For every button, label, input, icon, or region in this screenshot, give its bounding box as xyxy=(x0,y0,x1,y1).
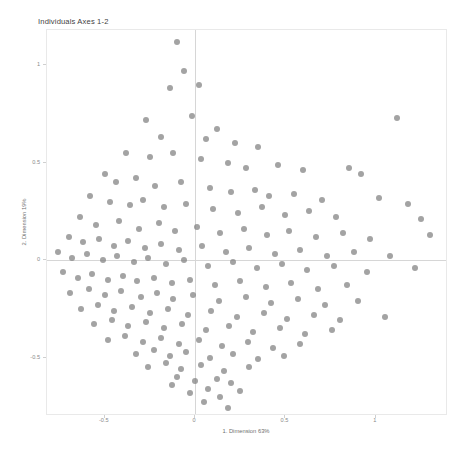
scatter-point xyxy=(221,368,227,374)
scatter-point xyxy=(75,275,81,281)
scatter-point xyxy=(127,202,133,208)
scatter-point xyxy=(216,298,222,304)
scatter-point xyxy=(96,236,102,242)
scatter-point xyxy=(254,265,260,271)
scatter-point xyxy=(100,257,106,263)
scatter-point xyxy=(255,356,261,362)
scatter-point xyxy=(272,251,278,257)
scatter-point xyxy=(187,277,193,283)
y-tick-mark xyxy=(43,259,46,260)
scatter-point xyxy=(187,390,193,396)
scatter-point xyxy=(67,290,73,296)
scatter-point xyxy=(116,218,122,224)
scatter-point xyxy=(228,380,234,386)
scatter-point xyxy=(394,115,400,121)
chart-root: Individuals Axes 1-2 -0.500.51 -0.500.51… xyxy=(0,0,467,453)
scatter-point xyxy=(344,282,350,288)
scatter-point xyxy=(118,288,124,294)
x-axis-label: 1. Dimension 63% xyxy=(222,428,269,434)
scatter-point xyxy=(351,249,357,255)
scatter-point xyxy=(207,185,213,191)
scatter-point xyxy=(147,154,153,160)
scatter-point xyxy=(89,271,95,277)
scatter-point xyxy=(304,267,310,273)
scatter-point xyxy=(140,339,146,345)
scatter-point xyxy=(282,212,288,218)
scatter-point xyxy=(114,253,120,259)
scatter-point xyxy=(367,236,373,242)
scatter-point xyxy=(109,317,115,323)
scatter-point xyxy=(203,136,209,142)
scatter-point xyxy=(364,269,370,275)
scatter-point xyxy=(246,364,252,370)
scatter-point xyxy=(111,308,117,314)
scatter-point xyxy=(337,317,343,323)
scatter-point xyxy=(208,308,214,314)
scatter-point xyxy=(315,286,321,292)
scatter-point xyxy=(183,201,189,207)
scatter-point xyxy=(214,376,220,382)
scatter-point xyxy=(55,249,61,255)
scatter-point xyxy=(237,278,243,284)
scatter-point xyxy=(225,405,231,411)
scatter-point xyxy=(219,343,225,349)
scatter-point xyxy=(125,323,131,329)
scatter-point xyxy=(255,144,261,150)
scatter-point xyxy=(246,245,252,251)
scatter-point xyxy=(245,339,251,345)
scatter-point xyxy=(102,171,108,177)
scatter-point xyxy=(145,364,151,370)
scatter-point xyxy=(170,150,176,156)
scatter-point xyxy=(284,316,290,322)
scatter-point xyxy=(324,253,330,259)
scatter-point xyxy=(207,355,213,361)
scatter-point xyxy=(151,275,157,281)
scatter-point xyxy=(185,312,191,318)
plot-panel xyxy=(46,29,447,415)
scatter-point xyxy=(145,255,151,261)
scatter-point xyxy=(60,269,66,275)
scatter-point xyxy=(143,319,149,325)
scatter-point xyxy=(235,210,241,216)
scatter-point xyxy=(261,310,267,316)
scatter-point xyxy=(241,226,247,232)
scatter-point xyxy=(313,234,319,240)
scatter-point xyxy=(346,165,352,171)
scatter-point xyxy=(311,312,317,318)
scatter-point xyxy=(134,278,140,284)
x-tick-label: 1 xyxy=(373,417,376,423)
scatter-point xyxy=(199,243,205,249)
scatter-point xyxy=(165,306,171,312)
scatter-point xyxy=(125,238,131,244)
scatter-point xyxy=(405,201,411,207)
scatter-point xyxy=(228,189,234,195)
scatter-point xyxy=(87,193,93,199)
scatter-point xyxy=(111,243,117,249)
scatter-point xyxy=(192,378,198,384)
scatter-point xyxy=(142,245,148,251)
scatter-point xyxy=(129,304,135,310)
scatter-point xyxy=(217,394,223,400)
scatter-point xyxy=(266,193,272,199)
scatter-point xyxy=(147,310,153,316)
scatter-point xyxy=(279,261,285,267)
scatter-point xyxy=(234,314,240,320)
scatter-point xyxy=(84,251,90,257)
scatter-point xyxy=(66,234,72,240)
scatter-point xyxy=(156,220,162,226)
scatter-point xyxy=(122,333,128,339)
scatter-point xyxy=(268,300,274,306)
x-tick-label: 0.5 xyxy=(281,417,289,423)
scatter-point xyxy=(183,349,189,355)
scatter-point xyxy=(226,323,232,329)
scatter-point xyxy=(120,273,126,279)
scatter-point xyxy=(358,171,364,177)
scatter-point xyxy=(178,366,184,372)
scatter-point xyxy=(154,290,160,296)
scatter-point xyxy=(281,353,287,359)
scatter-point xyxy=(196,337,202,343)
scatter-point xyxy=(288,280,294,286)
scatter-point xyxy=(198,156,204,162)
scatter-point xyxy=(297,247,303,253)
scatter-point xyxy=(355,298,361,304)
